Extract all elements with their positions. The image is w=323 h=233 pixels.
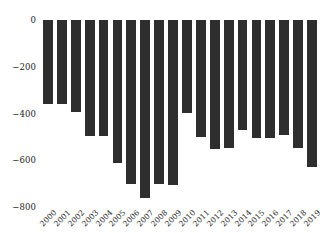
bar[interactable] <box>154 20 164 184</box>
bar-slot <box>182 20 192 207</box>
bar-slot <box>99 20 109 207</box>
bar-slot <box>210 20 220 207</box>
bar-slot <box>154 20 164 207</box>
bar[interactable] <box>85 20 95 136</box>
bar-slot <box>279 20 289 207</box>
bar[interactable] <box>196 20 206 137</box>
bar[interactable] <box>99 20 109 136</box>
bar[interactable] <box>307 20 317 167</box>
y-axis: 0−200−400−600−800 <box>0 0 41 233</box>
bar-slot <box>71 20 81 207</box>
bar-slot <box>113 20 123 207</box>
bar[interactable] <box>168 20 178 185</box>
bar[interactable] <box>43 20 53 104</box>
y-tick-label: −800 <box>12 202 36 212</box>
bar[interactable] <box>126 20 136 184</box>
bar[interactable] <box>113 20 123 163</box>
bar-slot <box>57 20 67 207</box>
bar-slot <box>140 20 150 207</box>
y-tick-label: −600 <box>12 155 36 165</box>
y-tick-label: −400 <box>12 109 36 119</box>
bar[interactable] <box>71 20 81 112</box>
bar[interactable] <box>252 20 262 138</box>
bar-slot <box>196 20 206 207</box>
bar-slot <box>43 20 53 207</box>
bar-slot <box>126 20 136 207</box>
bar[interactable] <box>210 20 220 149</box>
bar[interactable] <box>224 20 234 148</box>
bar-slot <box>224 20 234 207</box>
bar[interactable] <box>238 20 248 130</box>
plot-area <box>41 20 319 207</box>
bar[interactable] <box>279 20 289 135</box>
bar-slot <box>238 20 248 207</box>
bar-chart: 0−200−400−600−800 2000200120022003200420… <box>0 0 323 233</box>
bar[interactable] <box>182 20 192 113</box>
x-axis: 2000200120022003200420052006200720082009… <box>41 207 319 233</box>
bar-slot <box>293 20 303 207</box>
bar[interactable] <box>57 20 67 104</box>
y-tick-label: −200 <box>12 62 36 72</box>
bar-slot <box>265 20 275 207</box>
bar-slot <box>307 20 317 207</box>
y-tick-label: 0 <box>30 15 36 25</box>
bar[interactable] <box>265 20 275 138</box>
bar[interactable] <box>140 20 150 198</box>
bar[interactable] <box>293 20 303 148</box>
bar-slot <box>252 20 262 207</box>
bar-slot <box>168 20 178 207</box>
bar-slot <box>85 20 95 207</box>
